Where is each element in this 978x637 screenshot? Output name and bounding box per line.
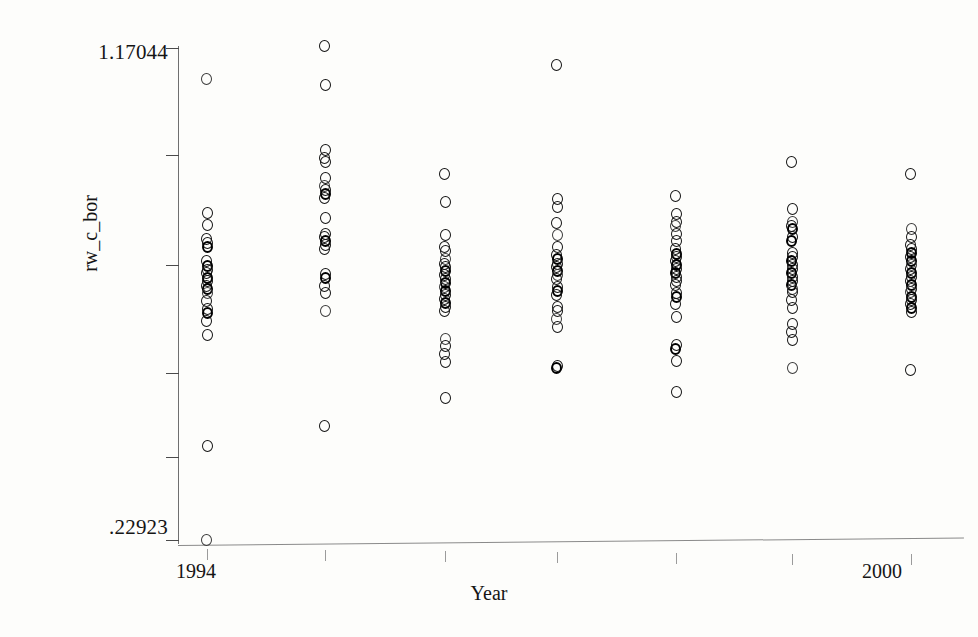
- data-point: [552, 321, 563, 333]
- data-point: [787, 334, 798, 346]
- data-point: [320, 79, 331, 91]
- data-point: [671, 311, 682, 323]
- data-point: [319, 420, 330, 432]
- data-point: [202, 440, 213, 452]
- data-point: [551, 362, 562, 374]
- data-point: [320, 156, 331, 168]
- scatter-plot-figure: 1.17044 .22923 rw_c_bor 1994 2000 Year: [0, 0, 978, 637]
- data-point: [440, 356, 451, 368]
- data-point: [320, 212, 331, 224]
- data-point: [202, 241, 213, 253]
- data-point: [671, 355, 682, 367]
- data-point: [552, 201, 563, 213]
- y-axis-tick: [166, 457, 179, 458]
- data-point: [439, 168, 450, 180]
- data-point: [319, 40, 330, 52]
- data-point: [551, 289, 562, 301]
- data-point: [319, 192, 330, 204]
- data-point: [440, 196, 451, 208]
- x-axis-tick: [207, 549, 208, 560]
- data-point: [552, 229, 563, 241]
- data-point: [671, 386, 682, 398]
- y-axis-tick: [166, 48, 179, 49]
- data-point: [670, 190, 681, 202]
- data-point: [440, 392, 451, 404]
- y-axis-tick: [166, 540, 179, 541]
- data-point: [319, 243, 330, 255]
- data-point: [201, 534, 212, 546]
- y-axis-tick: [166, 373, 179, 374]
- data-point: [786, 235, 797, 247]
- x-axis-tick: [676, 553, 677, 564]
- data-point: [202, 207, 213, 219]
- x-axis-tick: [557, 552, 558, 563]
- data-point: [905, 364, 916, 376]
- data-point: [320, 287, 331, 299]
- data-point: [551, 217, 562, 229]
- data-point: [670, 298, 681, 310]
- plot-area: [0, 0, 978, 637]
- data-point: [787, 302, 798, 314]
- data-point: [201, 73, 212, 85]
- y-axis-tick: [166, 155, 179, 156]
- data-point: [787, 362, 798, 374]
- data-point: [905, 168, 916, 180]
- data-point: [202, 329, 213, 341]
- data-point: [670, 343, 681, 355]
- data-point: [202, 219, 213, 231]
- y-axis-tick: [166, 265, 179, 266]
- x-axis-tick: [445, 551, 446, 562]
- data-point: [906, 306, 917, 318]
- data-point: [551, 59, 562, 71]
- data-point: [201, 315, 212, 327]
- x-axis-tick: [911, 554, 912, 565]
- data-point: [787, 203, 798, 215]
- data-point: [786, 156, 797, 168]
- x-axis-tick: [325, 550, 326, 561]
- data-point: [320, 305, 331, 317]
- x-axis-tick: [792, 554, 793, 565]
- data-point: [439, 305, 450, 317]
- data-point: [440, 229, 451, 241]
